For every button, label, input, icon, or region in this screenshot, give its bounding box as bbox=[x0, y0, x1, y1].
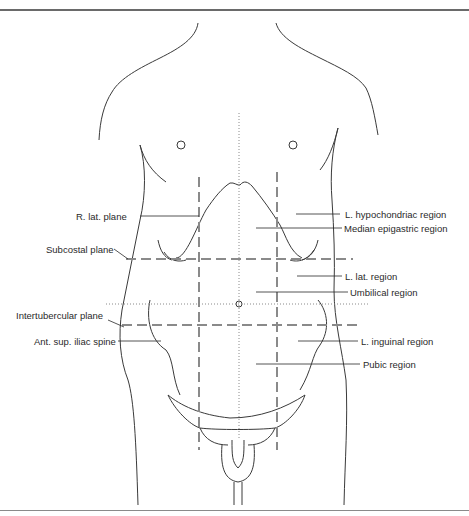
label-l-hypochondriac-region: L. hypochondriac region bbox=[345, 209, 446, 220]
left-pectoral-line bbox=[320, 128, 338, 170]
pubic-bones bbox=[200, 428, 275, 445]
left-iliac-crest bbox=[300, 300, 327, 390]
costal-margin bbox=[176, 182, 302, 258]
thigh-lines bbox=[234, 482, 242, 505]
label-intertubercular-plane: Intertubercular plane bbox=[16, 310, 103, 321]
pelvis-outline bbox=[168, 395, 305, 430]
genital-outline bbox=[222, 445, 255, 482]
abdomen-diagram bbox=[0, 0, 469, 516]
label-r-lat-plane: R. lat. plane bbox=[76, 211, 127, 222]
left-lower-ribs bbox=[290, 240, 318, 261]
left-torso-side bbox=[331, 128, 346, 505]
label-umbilical-region: Umbilical region bbox=[350, 287, 418, 298]
right-lower-ribs bbox=[158, 240, 186, 261]
label-subcostal-plane: Subcostal plane bbox=[46, 244, 114, 255]
label-pubic-region: Pubic region bbox=[363, 359, 416, 370]
label-median-epigastric-region: Median epigastric region bbox=[344, 223, 448, 234]
penis-outline bbox=[232, 440, 244, 468]
left-nipple bbox=[289, 141, 297, 149]
right-iliac-crest bbox=[149, 300, 180, 395]
right-nipple bbox=[177, 141, 185, 149]
label-l-lat-region: L. lat. region bbox=[345, 271, 397, 282]
right-shoulder-outline bbox=[276, 23, 378, 135]
left-shoulder-outline bbox=[99, 23, 198, 140]
label-l-inguinal-region: L. inguinal region bbox=[361, 336, 433, 347]
label-ant-sup-iliac-spine: Ant. sup. iliac spine bbox=[34, 336, 116, 347]
